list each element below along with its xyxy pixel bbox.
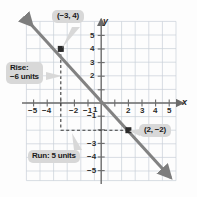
y-tick-label-5: 5 (90, 31, 94, 40)
graph-canvas (0, 0, 197, 197)
y-axis-label: y (103, 16, 108, 26)
x-tick-label-2: 2 (126, 106, 130, 115)
coordinate-plane-figure: (−3, 4) (2, −2) Rise: −6 units Run: 5 un… (0, 0, 197, 197)
y-tick-label--1: −1 (87, 111, 96, 120)
x-tick-label--5: −5 (28, 106, 37, 115)
y-tick-label-2: 2 (90, 71, 94, 80)
y-tick-label--4: −4 (87, 152, 96, 161)
point-marker-b (125, 127, 131, 133)
y-tick-label--5: −5 (87, 166, 96, 175)
point-b-label: (2, −2) (139, 124, 171, 137)
tail-point-a (62, 27, 80, 48)
x-tick-label-5: 5 (167, 106, 171, 115)
tail-rise (46, 72, 62, 80)
y-tick-label--3: −3 (87, 139, 96, 148)
run-annotation: Run: 5 units (28, 150, 80, 163)
x-tick-label-4: 4 (153, 106, 157, 115)
point-a-label: (−3, 4) (52, 10, 84, 23)
rise-annotation: Rise: −6 units (6, 62, 43, 84)
y-tick-label-3: 3 (90, 58, 94, 67)
y-tick-label-4: 4 (90, 44, 94, 53)
x-axis-label: x (182, 97, 187, 107)
x-tick-label--4: −4 (42, 106, 51, 115)
x-tick-label-3: 3 (140, 106, 144, 115)
x-tick-label--2: −2 (69, 106, 78, 115)
